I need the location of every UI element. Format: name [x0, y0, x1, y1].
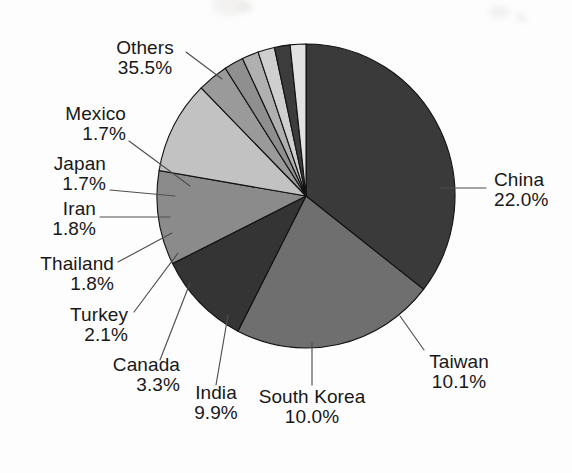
- label-canada: Canada 3.3%: [100, 355, 180, 395]
- label-mexico-name: Mexico: [56, 104, 126, 124]
- label-turkey: Turkey 2.1%: [58, 305, 128, 345]
- label-india-value: 9.9%: [188, 403, 244, 423]
- label-iran: Iran 1.8%: [38, 199, 96, 239]
- label-others-value: 35.5%: [106, 58, 184, 78]
- label-india-name: India: [188, 383, 244, 403]
- label-thailand: Thailand 1.8%: [28, 254, 114, 294]
- label-turkey-name: Turkey: [58, 305, 128, 325]
- label-thailand-value: 1.8%: [28, 274, 114, 294]
- leader-line-turkey: [134, 253, 178, 312]
- label-japan: Japan 1.7%: [44, 154, 106, 194]
- label-china: China 22.0%: [494, 170, 570, 210]
- leader-line-canada: [160, 283, 190, 360]
- label-mexico: Mexico 1.7%: [56, 104, 126, 144]
- leader-line-thailand: [118, 233, 172, 262]
- label-others-name: Others: [106, 38, 184, 58]
- label-taiwan-value: 10.1%: [420, 372, 498, 392]
- label-iran-name: Iran: [38, 199, 96, 219]
- label-india: India 9.9%: [188, 383, 244, 423]
- label-japan-name: Japan: [44, 154, 106, 174]
- label-south-korea: South Korea 10.0%: [252, 387, 372, 427]
- pie-chart-figure: Mexico 1.7% Japan 1.7% Iran 1.8% Thailan…: [0, 0, 572, 473]
- label-south-korea-value: 10.0%: [252, 407, 372, 427]
- leader-line-india: [216, 315, 228, 385]
- label-china-name: China: [494, 170, 570, 190]
- label-canada-value: 3.3%: [100, 375, 180, 395]
- label-others: Others 35.5%: [106, 38, 184, 78]
- leader-line-others: [186, 52, 222, 79]
- label-taiwan: Taiwan 10.1%: [420, 352, 498, 392]
- label-thailand-name: Thailand: [28, 254, 114, 274]
- label-turkey-value: 2.1%: [58, 325, 128, 345]
- label-china-value: 22.0%: [494, 190, 570, 210]
- pie-slices: [157, 44, 455, 348]
- label-iran-value: 1.8%: [38, 219, 96, 239]
- leader-line-taiwan: [400, 316, 424, 350]
- label-mexico-value: 1.7%: [56, 124, 126, 144]
- label-canada-name: Canada: [100, 355, 180, 375]
- label-taiwan-name: Taiwan: [420, 352, 498, 372]
- label-japan-value: 1.7%: [44, 174, 106, 194]
- label-south-korea-name: South Korea: [252, 387, 372, 407]
